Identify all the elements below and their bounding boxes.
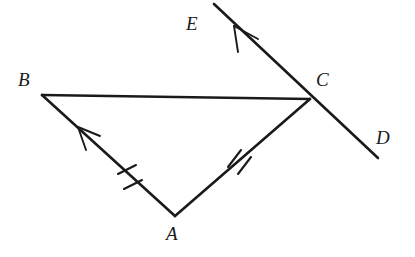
segment-AC xyxy=(175,99,310,216)
vertex-label-A: A xyxy=(166,224,178,243)
arrow-on-EC xyxy=(234,26,258,52)
segment-BA xyxy=(42,95,175,216)
segment-BC xyxy=(42,95,310,99)
vertex-label-D: D xyxy=(376,128,390,147)
vertex-label-E: E xyxy=(186,14,198,33)
vertex-label-B: B xyxy=(18,70,30,89)
geometry-figure xyxy=(0,0,415,257)
vertex-label-C: C xyxy=(316,70,329,89)
line-ED xyxy=(214,4,378,158)
